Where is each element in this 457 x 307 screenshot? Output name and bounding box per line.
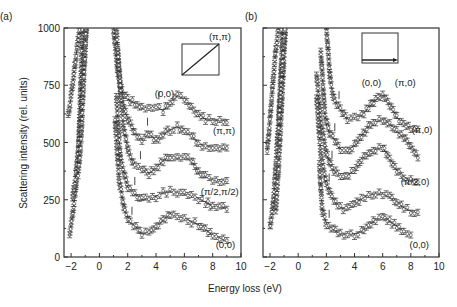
figure: −2024681002505007501000(0,0)(π,π)(π/2,π/… [0,0,457,307]
x-tick-label: 4 [153,261,159,272]
plot-frame [263,28,439,257]
curve-annotation: (0,0) [155,88,175,99]
curve-annotation: (0,0) [410,239,430,250]
x-tick-label: 8 [408,261,414,272]
x-tick-label: 0 [97,261,103,272]
x-tick-label: 8 [210,261,216,272]
y-axis-title: Scattering intensity (rel. units) [18,77,29,209]
curve-annotation: (π,0) [412,124,433,135]
inset-label-corner: (π,π) [209,31,231,42]
curve-annotation: (0,0) [216,239,236,250]
panel-a: −2024681002505007501000(0,0)(π,π)(π/2,π/… [38,23,247,272]
panel-b: −20246810(0,0)(π,0)(π,0)(π/2,0)(0,0) [263,23,445,272]
x-tick-label: 4 [352,261,358,272]
curve-annotation: (π/2,0) [401,176,430,187]
curve-annotation: (0,0) [362,77,382,88]
x-tick-label: 6 [182,261,188,272]
curve-annotation: (π/2,π/2) [201,186,239,197]
brillouin-zone-inset [362,33,398,63]
y-tick-label: 0 [54,252,60,263]
x-tick-label: 6 [380,261,386,272]
panel-b-label: (b) [245,11,257,22]
y-tick-label: 250 [43,195,60,206]
curve-annotation: (π,0) [395,77,416,88]
x-axis-title: Energy loss (eV) [208,283,282,294]
y-tick-label: 1000 [38,23,61,34]
y-tick-label: 500 [43,138,60,149]
x-tick-label: 0 [295,261,301,272]
x-tick-label: −2 [264,261,276,272]
curve-annotation: (π,π) [213,125,235,136]
x-tick-label: −2 [65,261,77,272]
x-tick-label: 10 [235,261,247,272]
y-tick-label: 750 [43,80,60,91]
x-tick-label: 2 [125,261,131,272]
x-tick-label: 2 [324,261,330,272]
panel-a-label: (a) [0,11,12,22]
x-tick-label: 10 [433,261,445,272]
